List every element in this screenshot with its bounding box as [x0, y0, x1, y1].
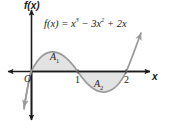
region-a1-subscript: 1	[56, 57, 59, 64]
function-graph-figure: f(x) f(x) = x3 − 3x2 + 2x O 1 2 A1 A2 x	[0, 0, 170, 128]
x-tick-label-2: 2	[124, 75, 129, 85]
equation-term3: 2x	[117, 18, 127, 29]
region-a2-subscript: 2	[100, 84, 103, 91]
equation-annotation: f(x) = x3 − 3x2 + 2x	[44, 17, 127, 29]
equation-operator-1: −	[81, 18, 88, 29]
equation-lhs: f(x)	[44, 18, 59, 29]
x-tick-label-1: 1	[75, 75, 80, 85]
region-label-a1: A1	[50, 52, 59, 65]
region-label-a2: A2	[94, 79, 103, 92]
y-axis-label: f(x)	[24, 1, 40, 11]
origin-label: O	[24, 74, 31, 84]
x-axis-label: x	[152, 72, 158, 82]
equation-operator-2: +	[107, 18, 114, 29]
